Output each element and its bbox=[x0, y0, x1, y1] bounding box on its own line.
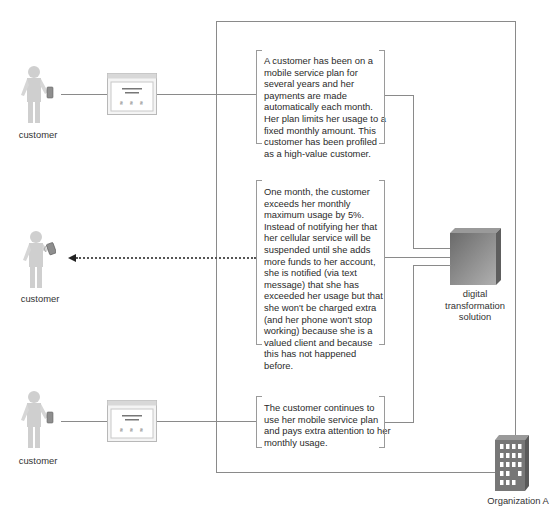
customer-label: customer bbox=[20, 293, 60, 304]
arrowhead-icon bbox=[68, 254, 76, 262]
customer-figure-icon bbox=[20, 65, 54, 125]
customer-label: customer bbox=[18, 455, 58, 466]
svg-text:₴: ₴ bbox=[120, 427, 123, 433]
connector-line bbox=[413, 248, 451, 249]
phone-icon bbox=[47, 87, 53, 98]
building-icon bbox=[495, 434, 531, 492]
customer-figure-icon bbox=[20, 390, 54, 450]
text-message-dotted-arrow bbox=[76, 257, 256, 259]
system-label: digital transformation solution bbox=[437, 288, 513, 323]
connector-line bbox=[61, 421, 107, 422]
server-icon bbox=[448, 228, 502, 286]
web-form-icon: ₴ ₴ ₴ bbox=[107, 400, 157, 442]
bracket-left bbox=[256, 50, 262, 144]
system-label-line: solution bbox=[437, 311, 513, 323]
system-label-line: transformation bbox=[437, 300, 513, 312]
connector-line bbox=[61, 94, 107, 95]
connector-line bbox=[385, 257, 451, 258]
svg-text:₴: ₴ bbox=[140, 100, 143, 106]
bracket-left bbox=[256, 396, 262, 448]
step-2-text: One month, the customer exceeds her mont… bbox=[264, 186, 386, 372]
bracket-right bbox=[379, 180, 385, 345]
connector-line bbox=[216, 94, 256, 95]
bracket-right bbox=[379, 50, 385, 144]
svg-text:₴: ₴ bbox=[130, 100, 133, 106]
customer-label: customer bbox=[18, 129, 58, 140]
step-1-text: A customer has been on a mobile service … bbox=[264, 55, 386, 159]
web-form-icon: ₴ ₴ ₴ bbox=[107, 73, 157, 115]
connector-line bbox=[385, 95, 413, 96]
bracket-left bbox=[256, 180, 262, 345]
organization-label: Organization A bbox=[482, 495, 554, 506]
svg-text:₴: ₴ bbox=[120, 100, 123, 106]
step-3-text: The customer continues to use her mobile… bbox=[264, 402, 392, 448]
svg-text:₴: ₴ bbox=[140, 427, 143, 433]
connector-line bbox=[157, 421, 256, 422]
connector-line bbox=[413, 265, 451, 266]
customer-figure-icon bbox=[22, 230, 56, 290]
connector-line bbox=[413, 265, 414, 423]
phone-icon bbox=[47, 412, 53, 423]
connector-line bbox=[157, 94, 216, 95]
connector-line bbox=[413, 95, 414, 249]
connector-line bbox=[385, 422, 414, 423]
system-label-line: digital bbox=[437, 288, 513, 300]
phone-icon bbox=[46, 242, 56, 255]
svg-text:₴: ₴ bbox=[130, 427, 133, 433]
